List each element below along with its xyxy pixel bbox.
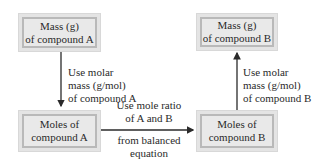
box-mass-a-line2: of compound A xyxy=(25,33,93,46)
box-mass-compound-a: Mass (g) of compound A xyxy=(18,13,101,52)
box-mass-b-line2: of compound B xyxy=(203,32,271,45)
box-mass-compound-b: Mass (g) of compound B xyxy=(196,13,278,51)
box-moles-compound-b: Moles of compound B xyxy=(196,110,278,152)
box-moles-a-line1: Moles of xyxy=(40,118,79,131)
box-mass-a-line1: Mass (g) xyxy=(40,20,79,33)
box-moles-b-line2: compound B xyxy=(209,131,266,144)
label-molar-mass-b: Use molar mass (g/mol) of compound B xyxy=(243,66,311,105)
box-mass-b-line1: Mass (g) xyxy=(218,19,257,32)
label-balanced-equation: from balanced equation xyxy=(104,134,194,160)
label-mole-ratio: Use mole ratio of A and B xyxy=(104,99,194,125)
box-moles-b-line1: Moles of xyxy=(217,118,256,131)
box-moles-a-line2: compound A xyxy=(31,131,88,144)
box-moles-compound-a: Moles of compound A xyxy=(18,110,101,152)
